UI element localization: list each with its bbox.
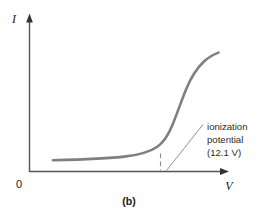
iv-curve-plot: I V 0 ionization potential (12.1 V) (b) (0, 0, 262, 218)
y-axis-label: I (11, 12, 17, 26)
x-axis-label: V (225, 179, 234, 193)
figure-container: I V 0 ionization potential (12.1 V) (b) (0, 0, 262, 218)
y-axis-arrowhead (26, 14, 33, 23)
x-axis-arrowhead (220, 168, 229, 175)
figure-caption: (b) (122, 195, 135, 207)
annotation-leader-line (167, 125, 204, 171)
iv-curve (53, 53, 219, 161)
curve-group (53, 53, 219, 161)
axes-group (26, 14, 229, 175)
annotation-text-block: ionization potential (12.1 V) (207, 121, 248, 158)
annotation-line-3: (12.1 V) (207, 147, 241, 158)
annotation-line-1: ionization (207, 121, 248, 132)
annotation-line-2: potential (207, 134, 243, 145)
origin-label: 0 (16, 178, 22, 190)
